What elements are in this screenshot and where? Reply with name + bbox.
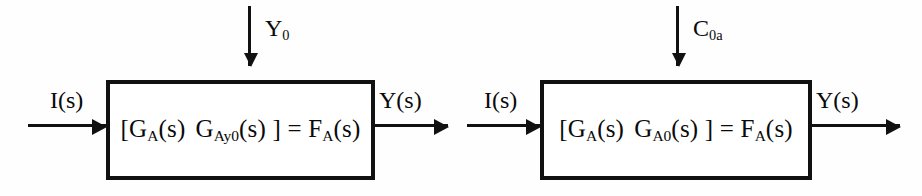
right-close-bracket: ] [705,115,714,142]
output-label-left: Y(s) [379,88,422,112]
transfer-block-left-text: [GA(s)GAy0(s) ] = FA(s) [110,116,371,144]
left-result-sub: A [322,127,333,144]
right-term2-main: G [634,115,652,142]
input-label-right: I(s) [484,88,517,112]
disturbance-label-right-main: C [693,15,709,41]
output-arrow-right [812,124,900,127]
left-term2-arg: (s) [239,115,266,142]
right-term1-main: G [568,115,586,142]
block-diagram-canvas: Y0 I(s) [GA(s)GAy0(s) ] = FA(s) Y(s) C0a… [0,0,922,196]
right-term2-arg: (s) [671,115,698,142]
right-equals: = [720,115,734,142]
disturbance-label-right-sub: 0a [709,27,723,43]
right-term2-sub: A0 [652,127,671,144]
right-open-bracket: [ [559,115,568,142]
left-result-main: F [308,115,322,142]
disturbance-arrow-right [676,6,679,66]
right-result-main: F [741,115,755,142]
left-open-bracket: [ [120,115,129,142]
left-equals: = [287,115,301,142]
left-close-bracket: ] [272,115,281,142]
right-term1-sub: A [586,127,597,144]
disturbance-label-right: C0a [693,16,723,42]
disturbance-arrow-left [248,6,251,66]
left-term1-sub: A [147,127,158,144]
disturbance-label-left-sub: 0 [282,27,289,43]
transfer-block-left: [GA(s)GAy0(s) ] = FA(s) [106,80,375,180]
input-arrow-left [28,124,106,127]
input-label-left: I(s) [50,88,83,112]
output-label-right: Y(s) [816,88,859,112]
left-result-arg: (s) [334,115,361,142]
input-arrow-right [467,124,540,127]
transfer-block-right: [GA(s)GA0(s) ] = FA(s) [540,80,812,180]
output-arrow-left [375,124,448,127]
right-result-arg: (s) [766,115,793,142]
disturbance-label-left: Y0 [265,16,290,42]
transfer-block-right-text: [GA(s)GA0(s) ] = FA(s) [544,116,808,144]
left-term2-sub: Ay0 [214,127,239,144]
left-term1-main: G [129,115,147,142]
right-result-sub: A [755,127,766,144]
disturbance-label-left-main: Y [265,15,282,41]
left-term2-main: G [195,115,213,142]
right-term1-arg: (s) [597,115,624,142]
left-term1-arg: (s) [158,115,185,142]
